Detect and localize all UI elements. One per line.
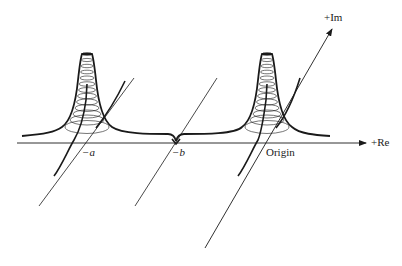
surface-profile-real xyxy=(22,54,330,141)
oblique-line-minus-b xyxy=(135,78,217,206)
point-label-minus-a: −a xyxy=(82,147,95,158)
imaginary-axis-label: +Im xyxy=(324,12,342,23)
real-axis-label: +Re xyxy=(371,137,389,148)
point-label-origin: Origin xyxy=(266,147,295,158)
diagram-canvas xyxy=(0,0,402,266)
contour-rings-minus-a xyxy=(65,53,109,134)
point-label-minus-b: −b xyxy=(172,147,185,158)
contour-rings-origin xyxy=(245,53,289,134)
pole-zero-surface-diagram: +Im +Re −a −b Origin xyxy=(0,0,402,266)
